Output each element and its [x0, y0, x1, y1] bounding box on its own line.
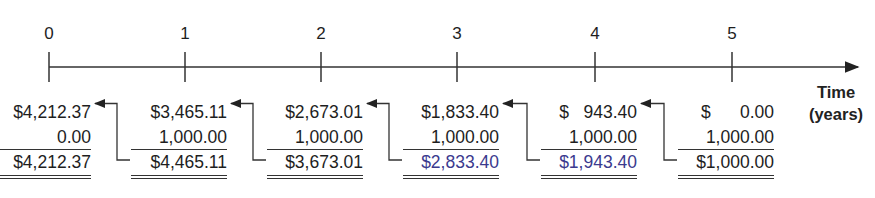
carry-back-arrow: [641, 104, 677, 161]
start-balance: $1,833.40: [403, 100, 499, 125]
period-calculation: $ 943.401,000.00$1,943.40: [541, 100, 637, 179]
carry-back-arrow: [503, 104, 540, 161]
period-calculation: $3,465.111,000.00$4,465.11: [131, 100, 227, 179]
start-balance: $4,212.37: [0, 100, 91, 125]
tick-label: 2: [311, 24, 331, 44]
start-balance: $ 0.00: [678, 100, 774, 125]
period-calculation: $1,833.401,000.00$2,833.40: [403, 100, 499, 179]
end-balance: $2,833.40: [403, 150, 499, 179]
start-balance: $ 943.40: [541, 100, 637, 125]
carry-back-arrow: [95, 104, 130, 161]
carry-back-arrow: [231, 104, 266, 161]
carry-back-arrow: [367, 104, 402, 161]
deposit-amount: 1,000.00: [541, 125, 637, 151]
period-calculation: $ 0.001,000.00$1,000.00: [678, 100, 774, 179]
deposit-amount: 1,000.00: [403, 125, 499, 151]
axis-title-line1: Time: [803, 81, 869, 103]
end-balance: $4,465.11: [131, 150, 227, 179]
period-calculation: $2,673.011,000.00$3,673.01: [267, 100, 363, 179]
tick-label: 5: [722, 24, 742, 44]
tick-label: 1: [175, 24, 195, 44]
end-balance: $1,943.40: [541, 150, 637, 179]
end-balance: $1,000.00: [678, 150, 774, 179]
deposit-amount: 0.00: [0, 125, 91, 151]
axis-title: Time (years): [803, 81, 869, 125]
timeline-diagram: 012345 $4,212.370.00$4,212.37$3,465.111,…: [0, 0, 875, 198]
start-balance: $3,465.11: [131, 100, 227, 125]
deposit-amount: 1,000.00: [131, 125, 227, 151]
end-balance: $3,673.01: [267, 150, 363, 179]
period-calculation: $4,212.370.00$4,212.37: [0, 100, 91, 179]
tick-label: 0: [39, 24, 59, 44]
deposit-amount: 1,000.00: [678, 125, 774, 151]
deposit-amount: 1,000.00: [267, 125, 363, 151]
start-balance: $2,673.01: [267, 100, 363, 125]
axis-title-line2: (years): [803, 103, 869, 125]
tick-label: 3: [447, 24, 467, 44]
tick-label: 4: [585, 24, 605, 44]
end-balance: $4,212.37: [0, 150, 91, 179]
